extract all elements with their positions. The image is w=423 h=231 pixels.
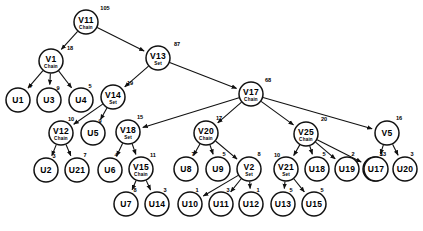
node-weight-u9: 5 bbox=[222, 151, 225, 157]
tree-node-u17[interactable]: U17 bbox=[364, 157, 388, 181]
tree-edge bbox=[263, 97, 372, 128]
tree-node-u3[interactable]: U3 bbox=[37, 88, 61, 112]
node-sublabel: Set bbox=[124, 135, 132, 140]
node-weight-u20: 3 bbox=[410, 151, 413, 157]
tree-node-v11[interactable]: V11Chain bbox=[74, 10, 98, 34]
node-sublabel: Chain bbox=[244, 97, 258, 102]
node-label: U17 bbox=[368, 164, 385, 174]
node-weight-v18: 15 bbox=[137, 114, 143, 120]
node-sublabel: Set bbox=[109, 100, 117, 105]
tree-node-u8[interactable]: U8 bbox=[174, 157, 198, 181]
tree-node-u7[interactable]: U7 bbox=[114, 192, 138, 216]
node-label: U20 bbox=[397, 164, 414, 174]
tree-node-v12[interactable]: V12Chain bbox=[49, 121, 73, 145]
tree-node-v17[interactable]: V17Chain bbox=[239, 82, 263, 106]
tree-node-u6[interactable]: U6 bbox=[98, 158, 122, 182]
node-layer: V11ChainV1ChainV13SetU1U3U4V14SetV17Chai… bbox=[6, 10, 417, 216]
node-sublabel: Set bbox=[245, 172, 253, 177]
node-sublabel: Chain bbox=[299, 137, 313, 142]
node-label: U7 bbox=[120, 199, 131, 209]
node-sublabel: Chain bbox=[79, 25, 93, 30]
node-label: U3 bbox=[43, 95, 54, 105]
node-weight-u14: 3 bbox=[163, 187, 166, 193]
node-weight-v1: 18 bbox=[67, 45, 73, 51]
node-weight-u21: 7 bbox=[83, 152, 86, 158]
node-label: U4 bbox=[75, 95, 86, 105]
node-label: V17 bbox=[243, 87, 259, 97]
tree-node-v13[interactable]: V13Set bbox=[146, 46, 170, 70]
node-weight-v15: 11 bbox=[150, 152, 156, 158]
tree-node-v21[interactable]: V21Set bbox=[274, 157, 298, 181]
tree-edge bbox=[143, 98, 239, 128]
node-label: V13 bbox=[150, 51, 166, 61]
tree-edge bbox=[132, 144, 136, 155]
node-weight-v17: 68 bbox=[265, 77, 271, 83]
tree-node-u13[interactable]: U13 bbox=[271, 192, 295, 216]
node-label: U18 bbox=[309, 164, 326, 174]
node-weight-v2: 8 bbox=[257, 151, 260, 157]
tree-node-u2[interactable]: U2 bbox=[34, 158, 58, 182]
tree-node-u4[interactable]: U4 bbox=[69, 88, 93, 112]
node-weight-u19: 2 bbox=[351, 151, 354, 157]
node-weight-u18: 5 bbox=[322, 151, 325, 157]
tree-node-v15[interactable]: V15Chain bbox=[129, 157, 153, 181]
node-weight-v25: 20 bbox=[321, 116, 327, 122]
tree-node-u9[interactable]: U9 bbox=[206, 157, 230, 181]
tree-edge bbox=[210, 145, 213, 154]
tree-edge bbox=[284, 181, 285, 188]
node-weight-u3: 9 bbox=[56, 85, 59, 91]
node-weight-u7: 8 bbox=[133, 187, 136, 193]
tree-node-u11[interactable]: U11 bbox=[209, 192, 233, 216]
node-weight-v5: 16 bbox=[396, 115, 402, 121]
tree-node-u21[interactable]: U21 bbox=[65, 158, 89, 182]
node-weight-v12: 10 bbox=[68, 116, 74, 122]
tree-node-v14[interactable]: V14Set bbox=[101, 85, 125, 109]
node-weight-u10: 1 bbox=[195, 187, 198, 193]
node-label: U13 bbox=[275, 199, 292, 209]
tree-edge bbox=[146, 180, 150, 190]
tree-node-u18[interactable]: U18 bbox=[305, 157, 329, 181]
tree-node-v18[interactable]: V18Set bbox=[116, 120, 140, 144]
node-sublabel: Set bbox=[154, 61, 162, 66]
tree-node-u1[interactable]: U1 bbox=[6, 88, 30, 112]
tree-edge bbox=[310, 146, 313, 154]
tree-node-v1[interactable]: V1Chain bbox=[39, 49, 63, 73]
tree-node-u12[interactable]: U12 bbox=[239, 192, 263, 216]
node-weight-u11: 3 bbox=[226, 187, 229, 193]
tree-edge bbox=[50, 73, 51, 84]
tree-edge bbox=[231, 179, 242, 192]
tree-node-v2[interactable]: V2Set bbox=[237, 157, 261, 181]
tree-node-v25[interactable]: V25Chain bbox=[294, 122, 318, 146]
tree-diagram-canvas: V11ChainV1ChainV13SetU1U3U4V14SetV17Chai… bbox=[0, 0, 423, 231]
node-label: V11 bbox=[78, 15, 94, 25]
tree-node-u15[interactable]: U15 bbox=[302, 192, 326, 216]
tree-edge bbox=[66, 144, 71, 155]
node-weight-u8: 7 bbox=[191, 151, 194, 157]
node-label: V2 bbox=[244, 162, 255, 172]
tree-node-u10[interactable]: U10 bbox=[178, 192, 202, 216]
tree-node-v5[interactable]: V5 bbox=[375, 121, 399, 145]
tree-node-v20[interactable]: V20Chain bbox=[194, 121, 218, 145]
tree-node-u14[interactable]: U14 bbox=[145, 192, 169, 216]
node-sublabel: Set bbox=[282, 172, 290, 177]
node-weight-v11: 105 bbox=[100, 5, 109, 11]
node-sublabel: Chain bbox=[54, 136, 68, 141]
node-sublabel: Chain bbox=[44, 64, 58, 69]
tree-edge bbox=[170, 63, 237, 89]
tree-node-u5[interactable]: U5 bbox=[81, 121, 105, 145]
tree-node-u20[interactable]: U20 bbox=[393, 157, 417, 181]
node-label: U10 bbox=[182, 199, 199, 209]
tree-edge bbox=[97, 28, 144, 51]
node-label: V18 bbox=[120, 125, 136, 135]
node-label: U5 bbox=[87, 128, 98, 138]
node-weight-u13: 5 bbox=[289, 187, 292, 193]
node-weight-u5: 9 bbox=[98, 118, 101, 124]
node-label: U6 bbox=[104, 165, 115, 175]
tree-node-u19[interactable]: U19 bbox=[335, 157, 359, 181]
node-label: U19 bbox=[339, 164, 356, 174]
node-weight-v14: 19 bbox=[127, 80, 133, 86]
node-label: U8 bbox=[180, 164, 191, 174]
node-sublabel: Chain bbox=[134, 172, 148, 177]
node-label: U21 bbox=[69, 165, 86, 175]
node-weight-u4: 5 bbox=[88, 83, 91, 89]
